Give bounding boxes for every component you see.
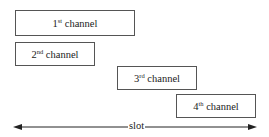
arrow-right-icon xyxy=(248,124,257,130)
arrow-left-icon xyxy=(13,124,22,130)
slot-arrow xyxy=(0,0,269,137)
slot-label: slot xyxy=(128,120,145,131)
